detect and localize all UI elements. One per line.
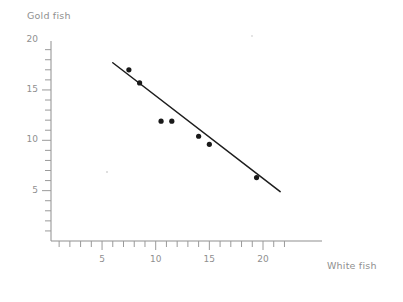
y-tick-label: 5 bbox=[18, 185, 38, 195]
scan-speck bbox=[251, 35, 253, 37]
y-tick-label: 10 bbox=[18, 134, 38, 144]
data-point bbox=[158, 119, 163, 124]
scatter-chart: Gold fish White fish 51015205101520 bbox=[0, 0, 403, 302]
x-tick-label: 20 bbox=[253, 254, 273, 264]
data-point bbox=[137, 80, 142, 85]
x-tick-label: 15 bbox=[199, 254, 219, 264]
scan-speck bbox=[106, 171, 108, 173]
faint-artifacts bbox=[106, 35, 253, 173]
y-tick-label: 20 bbox=[18, 34, 38, 44]
data-point bbox=[207, 142, 212, 147]
data-point bbox=[126, 67, 131, 72]
x-tick-label: 10 bbox=[146, 254, 166, 264]
data-point bbox=[196, 134, 201, 139]
data-point bbox=[254, 175, 259, 180]
data-point bbox=[169, 119, 174, 124]
y-tick-label: 15 bbox=[18, 84, 38, 94]
axes bbox=[51, 41, 322, 241]
x-tick-label: 5 bbox=[92, 254, 112, 264]
tick-marks bbox=[42, 50, 284, 250]
